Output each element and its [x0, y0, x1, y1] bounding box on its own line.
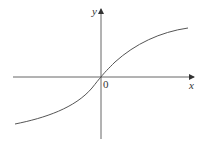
x-axis-label: x — [188, 79, 194, 91]
origin-label: 0 — [103, 78, 109, 90]
y-axis-label: y — [91, 5, 97, 17]
function-curve — [15, 28, 188, 124]
graph-canvas: y 0 x — [0, 0, 209, 144]
